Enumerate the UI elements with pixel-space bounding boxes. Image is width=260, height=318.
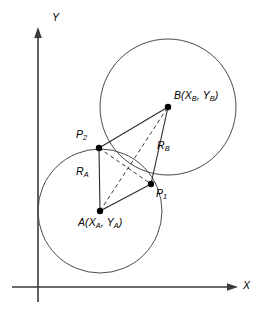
point-b-sub1: B — [192, 94, 197, 103]
x-axis-label: X — [243, 280, 250, 291]
geometry-figure: Y X B(XB, YB) A(XA, YA) P2 P1 RA RB — [0, 0, 260, 318]
point-b-close: ) — [215, 89, 219, 101]
point-a-sub2: A — [114, 221, 119, 230]
y-axis-arrowhead — [34, 27, 42, 38]
point-b-marker — [165, 104, 171, 110]
point-a-sub1: A — [96, 221, 101, 230]
point-a-mid: , Y — [101, 216, 114, 228]
radius-b-label: RB — [157, 140, 170, 151]
point-b-label: B(XB, YB) — [174, 90, 218, 101]
point-b-mid: , Y — [197, 89, 210, 101]
point-p1-marker — [148, 181, 154, 187]
radius-b-sub: B — [165, 144, 170, 153]
radius-b-main: R — [157, 139, 165, 151]
radius-a-main: R — [76, 165, 84, 177]
point-p1-sub: 1 — [163, 192, 167, 201]
point-b-sub2: B — [210, 94, 215, 103]
point-p2-label: P2 — [76, 129, 87, 140]
point-p2-marker — [96, 145, 102, 151]
diagram-canvas — [0, 0, 260, 318]
point-a-marker — [97, 208, 103, 214]
point-b-prefix: B(X — [174, 89, 192, 101]
point-p2-sub: 2 — [83, 133, 87, 142]
radius-a-label: RA — [76, 166, 89, 177]
point-a-close: ) — [119, 216, 123, 228]
point-p1-label: P1 — [156, 188, 167, 199]
point-a-prefix: A(X — [78, 216, 96, 228]
x-axis-arrowhead — [227, 283, 238, 291]
radius-a-sub: A — [84, 170, 89, 179]
point-a-label: A(XA, YA) — [78, 217, 122, 228]
y-axis-label: Y — [52, 12, 59, 23]
segment-a-p2 — [99, 148, 100, 211]
segment-p1-a — [100, 184, 151, 211]
